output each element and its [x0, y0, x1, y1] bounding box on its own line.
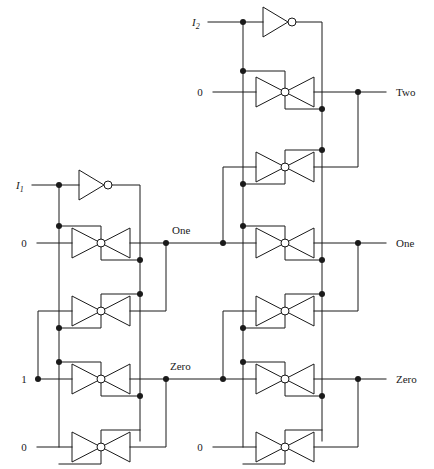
tg-left-2-bubble — [97, 307, 105, 315]
tg-right-6-bubble — [281, 443, 289, 451]
label-output-one: One — [396, 237, 414, 249]
tg-right-2-bubble — [281, 163, 289, 171]
tg-right-5-ctrl-bot — [285, 383, 322, 396]
circuit-diagram: I1 0 1 0 I2 0 0 One Zero Two One Zero — [0, 0, 434, 469]
tg-left-3-bubble — [97, 375, 105, 383]
junction-tg-left-2-ctrl — [137, 291, 143, 297]
junction-left-one — [35, 376, 41, 382]
label-input-left-zero: 0 — [21, 237, 27, 249]
tg-right-1-ctrl-bot — [285, 96, 322, 109]
wire-tg-right-2-out — [314, 92, 358, 167]
label-input-i1: I1 — [15, 179, 24, 194]
junction-tg-right-1-ctrl — [319, 106, 325, 112]
label-input-i2: I2 — [191, 16, 200, 31]
tg-left-4-bubble — [97, 443, 105, 451]
inverter-i1-body — [79, 170, 104, 200]
wire-tg-left-2-in — [38, 311, 72, 378]
inverter-i2-body — [263, 7, 288, 37]
wire-tg-left-2-out — [130, 243, 166, 311]
tg-right-2-ctrl-top — [285, 150, 322, 163]
tg-right-1-ctrl-top — [243, 71, 285, 88]
junction-tg-right-2-ctrl — [319, 147, 325, 153]
label-output-two: Two — [396, 86, 416, 98]
inverter-i2-bubble — [288, 18, 296, 26]
tg-right-6-ctrl-top — [285, 430, 322, 443]
label-mid-one: One — [172, 224, 190, 236]
junction-tg-right-3-ctrl — [319, 257, 325, 263]
label-mid-zero: Zero — [170, 360, 191, 372]
tg-right-5-bubble — [281, 375, 289, 383]
label-input-left-zero2: 0 — [21, 441, 27, 453]
tg-left-1-bubble — [97, 239, 105, 247]
wire-tg-right-4-out — [314, 243, 358, 311]
junction-tg-right-4-ctrl — [319, 291, 325, 297]
bus-i1-complement — [112, 185, 140, 441]
wire-tg-right-6-out — [314, 379, 358, 447]
tg-right-1-bubble — [281, 88, 289, 96]
label-input-left-one: 1 — [21, 373, 27, 385]
inverter-i1-bubble — [104, 181, 112, 189]
tg-right-3-bubble — [281, 239, 289, 247]
junction-tg-left-1-ctrl — [137, 257, 143, 263]
label-input-right-zero: 0 — [197, 86, 203, 98]
label-input-right-zero2: 0 — [197, 441, 203, 453]
wire-tg-right-2-in — [223, 167, 256, 243]
wire-tg-right-4-in — [223, 311, 256, 379]
wire-tg-left-4-out — [130, 379, 166, 447]
label-output-zero: Zero — [396, 373, 417, 385]
tg-right-3-ctrl-bot — [285, 247, 322, 260]
junction-tg-right-5-ctrl — [319, 393, 325, 399]
junction-tg-left-3-ctrl — [137, 393, 143, 399]
tg-right-4-ctrl-top — [285, 294, 322, 307]
tg-right-4-bubble — [281, 307, 289, 315]
